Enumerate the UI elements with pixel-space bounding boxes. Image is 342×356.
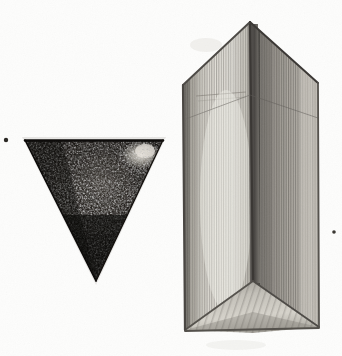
scan-smudge-top [190, 38, 222, 52]
engraving-plate: Geometric solids engraving Scanned halft… [0, 0, 342, 356]
prism-center-edge [248, 22, 260, 283]
figure-triangular-prism [180, 20, 324, 340]
scan-smudge-bottom [206, 340, 266, 350]
speck-right-icon [332, 230, 336, 234]
prism-right-silhouette-edge [318, 83, 319, 327]
speck-left-icon [4, 138, 8, 142]
engraving-artwork [0, 0, 342, 356]
